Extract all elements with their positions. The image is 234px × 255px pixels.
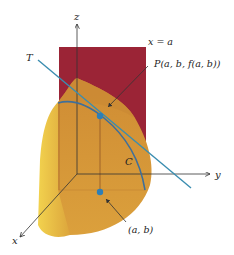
label-x-axis: x bbox=[12, 235, 18, 246]
label-z-axis: z bbox=[73, 11, 80, 22]
label-point-p: P(a, b, f(a, b)) bbox=[153, 58, 221, 69]
point-p bbox=[97, 113, 103, 119]
label-plane: x = a bbox=[148, 36, 173, 47]
label-base-point: (a, b) bbox=[128, 224, 153, 235]
label-y-axis: y bbox=[214, 169, 221, 180]
label-curve-c: C bbox=[125, 156, 133, 167]
diagram-canvas: z y x x = a T P(a, b, f(a, b)) C (a, b) bbox=[0, 0, 234, 255]
label-tangent: T bbox=[26, 52, 34, 63]
point-a-b bbox=[97, 189, 103, 195]
